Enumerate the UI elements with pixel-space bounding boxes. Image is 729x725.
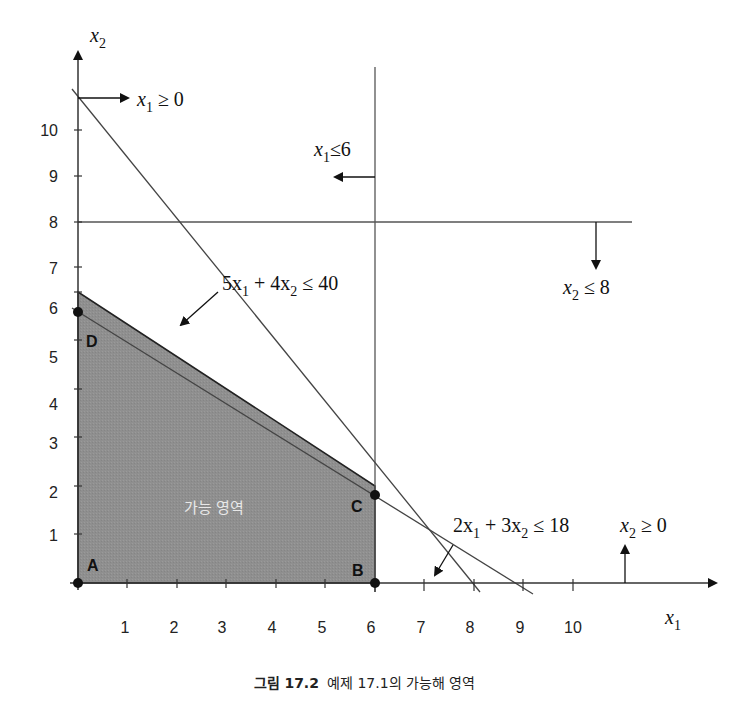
caption-text: 예제 17.1의 가능해 영역 [327, 675, 476, 691]
feasible-region-label: 가능 영역 [184, 499, 245, 517]
svg-text:2: 2 [170, 619, 179, 636]
svg-text:9: 9 [516, 619, 525, 636]
constraint-label-x2-le-8: x2 ≤ 8 [562, 276, 610, 303]
figure-caption: 그림 17.2예제 17.1의 가능해 영역 [0, 672, 729, 692]
y-tick-labels: 1 2 3 4 5 6 7 8 9 10 [40, 122, 58, 544]
vertex-c-point [370, 490, 380, 500]
svg-text:4: 4 [49, 396, 58, 413]
constraint-label-c2: 2x1 + 3x2 ≤ 18 [453, 514, 569, 541]
c2-arrow [435, 545, 453, 575]
figure-number: 그림 17.2 [254, 675, 319, 691]
vertex-b-point [370, 578, 380, 588]
svg-text:4: 4 [268, 619, 277, 636]
svg-text:5: 5 [318, 619, 327, 636]
svg-text:1: 1 [49, 527, 58, 544]
constraint-label-x1-nonneg: x1 ≥ 0 [136, 88, 184, 115]
svg-text:5: 5 [49, 349, 58, 366]
vertex-a-point [73, 578, 83, 588]
vertex-label-b: B [352, 562, 364, 579]
svg-text:8: 8 [49, 214, 58, 231]
svg-text:2: 2 [49, 484, 58, 501]
svg-text:10: 10 [564, 619, 582, 636]
feasible-region [78, 292, 375, 583]
vertex-label-c: C [351, 498, 363, 515]
svg-text:3: 3 [49, 435, 58, 452]
feasible-region-figure: 1 2 3 4 5 6 7 8 9 10 1 2 3 4 5 6 7 8 9 1… [0, 0, 729, 725]
svg-text:7: 7 [417, 619, 426, 636]
svg-text:1: 1 [121, 619, 130, 636]
vertex-label-a: A [87, 557, 99, 574]
svg-text:9: 9 [49, 168, 58, 185]
x1-axis-label: x1 [664, 606, 681, 633]
svg-text:6: 6 [367, 619, 376, 636]
svg-text:6: 6 [49, 300, 58, 317]
svg-text:3: 3 [218, 619, 227, 636]
vertex-label-d: D [86, 333, 98, 350]
svg-text:8: 8 [466, 619, 475, 636]
svg-text:7: 7 [49, 260, 58, 277]
c1-arrow [181, 292, 218, 325]
constraint-label-x2-nonneg: x2 ≥ 0 [619, 514, 667, 541]
vertex-d-point [73, 307, 83, 317]
x-tick-labels: 1 2 3 4 5 6 7 8 9 10 [121, 619, 582, 636]
x2-axis-label: x2 [89, 24, 106, 51]
constraint-label-x1-le-6: x1≤6 [313, 138, 351, 165]
svg-text:10: 10 [40, 122, 58, 139]
lp-graph: 1 2 3 4 5 6 7 8 9 10 1 2 3 4 5 6 7 8 9 1… [0, 0, 729, 725]
